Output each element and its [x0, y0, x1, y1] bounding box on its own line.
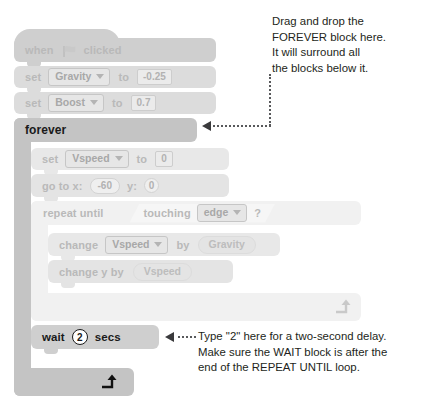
wait-block[interactable]: wait 2 secs	[31, 325, 159, 349]
forever-left-wall	[14, 118, 31, 396]
forever-block-header[interactable]: forever	[14, 118, 197, 142]
gravity-value-input[interactable]: -0.25	[137, 69, 172, 85]
wait-callout-text: Type "2" here for a two-second delay. Ma…	[198, 329, 420, 376]
forever-callout-text: Drag and drop the FOREVER block here. It…	[272, 14, 417, 76]
to-label: to	[137, 153, 148, 165]
set-gravity-block[interactable]: set Gravity to -0.25	[14, 66, 216, 88]
touching-label: touching	[144, 207, 191, 219]
secs-label: secs	[95, 331, 121, 343]
forever-loop-arrow-icon	[100, 374, 117, 388]
chevron-down-icon	[90, 100, 98, 105]
forever-label: forever	[25, 123, 66, 137]
wait-callout-hline	[178, 336, 196, 338]
change-y-notch	[61, 283, 75, 288]
to-label: to	[112, 97, 123, 109]
wait-notch	[44, 349, 58, 354]
change-y-label: change y by	[59, 266, 124, 278]
forever-callout-line-1: Drag and drop the	[272, 14, 417, 30]
change-vspeed-block[interactable]: change Vspeed by Gravity	[48, 233, 280, 256]
boost-value-input[interactable]: 0.7	[131, 95, 157, 111]
go-to-xy-block[interactable]: go to x: -60 y: 0	[31, 174, 229, 197]
wait-callout-line-2: Make sure the WAIT block is after the	[198, 345, 420, 361]
set-vspeed-block[interactable]: set Vspeed to 0	[31, 148, 229, 170]
set-label: set	[25, 71, 41, 83]
forever-callout-line-2: FOREVER block here.	[272, 30, 417, 46]
vspeed-variable-dropdown[interactable]: Vspeed	[65, 150, 128, 168]
chevron-down-icon	[233, 210, 241, 215]
green-flag-icon	[62, 44, 77, 57]
go-to-y-label: y:	[127, 180, 137, 192]
go-to-x-label: go to x:	[42, 180, 83, 192]
vspeed-variable-pill[interactable]: Vspeed	[133, 263, 192, 281]
touching-target-dropdown[interactable]: edge	[197, 204, 248, 222]
set-label: set	[42, 153, 58, 165]
change-label: change	[59, 239, 98, 251]
wait-callout-arrow-icon	[165, 332, 174, 342]
when-flag-clicked-block[interactable]: when clicked	[14, 38, 216, 62]
gravity-variable-label: Gravity	[55, 70, 91, 83]
set-label: set	[25, 97, 41, 109]
forever-callout-vline	[269, 74, 271, 126]
clicked-label: clicked	[84, 44, 122, 56]
change-y-block[interactable]: change y by Vspeed	[48, 260, 233, 283]
go-to-x-input[interactable]: -60	[90, 178, 120, 194]
go-to-y-input[interactable]: 0	[144, 178, 159, 193]
forever-callout-arrow-icon	[202, 121, 211, 131]
touching-target-label: edge	[204, 206, 229, 219]
chevron-down-icon	[115, 156, 123, 161]
wait-callout-line-3: end of the REPEAT UNTIL loop.	[198, 360, 420, 376]
gravity-variable-pill[interactable]: Gravity	[198, 236, 256, 254]
repeat-until-header[interactable]: repeat until touching edge ?	[31, 201, 361, 225]
forever-callout-line-4: the blocks below it.	[272, 61, 417, 77]
vspeed-variable-label: Vspeed	[72, 152, 109, 165]
question-mark-label: ?	[254, 207, 261, 219]
forever-callout-hline	[213, 125, 271, 127]
wait-seconds-input[interactable]: 2	[72, 329, 88, 345]
wait-callout-line-1: Type "2" here for a two-second delay.	[198, 329, 420, 345]
boost-variable-dropdown[interactable]: Boost	[48, 94, 104, 112]
forever-callout-line-3: It will surround all	[272, 45, 417, 61]
change-vspeed-variable-dropdown[interactable]: Vspeed	[105, 236, 168, 254]
change-vspeed-variable-label: Vspeed	[112, 238, 149, 251]
by-label: by	[176, 239, 189, 251]
touching-edge-condition[interactable]: touching edge ?	[130, 204, 276, 223]
chevron-down-icon	[96, 74, 104, 79]
to-label: to	[118, 71, 129, 83]
set-boost-block[interactable]: set Boost to 0.7	[14, 92, 216, 114]
repeat-until-label: repeat until	[43, 207, 104, 219]
repeat-until-foot	[31, 293, 361, 321]
vspeed-value-input[interactable]: 0	[155, 151, 173, 167]
gravity-variable-dropdown[interactable]: Gravity	[48, 68, 110, 86]
chevron-down-icon	[154, 242, 162, 247]
when-label: when	[25, 44, 54, 56]
repeat-until-loop-arrow-icon	[334, 299, 351, 313]
boost-variable-label: Boost	[55, 96, 85, 109]
wait-label: wait	[42, 331, 65, 343]
